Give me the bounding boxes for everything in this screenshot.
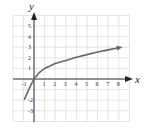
function-graph: x y -11234567854321-2-3	[0, 0, 145, 129]
y-tick-label: 4	[28, 34, 31, 40]
x-tick-label: 1	[43, 81, 46, 87]
x-axis-label: x	[134, 73, 140, 85]
x-tick-label: -1	[21, 81, 26, 87]
x-tick-label: 4	[74, 81, 77, 87]
x-tick-label: 2	[53, 81, 56, 87]
y-tick-label: 5	[28, 23, 31, 29]
y-axis-arrow-icon	[31, 12, 37, 20]
y-tick-label: -3	[28, 108, 33, 114]
data-curve	[25, 48, 119, 99]
curve-arrow-icon	[116, 46, 122, 51]
x-axis-arrow-icon	[125, 76, 133, 82]
y-tick-label: -2	[28, 97, 33, 103]
y-tick-label: 3	[28, 44, 31, 50]
x-tick-label: 7	[106, 81, 109, 87]
y-tick-label: 1	[28, 65, 31, 71]
y-tick-label: 2	[28, 55, 31, 61]
x-tick-label: 8	[117, 81, 120, 87]
x-tick-label: 3	[64, 81, 67, 87]
x-tick-label: 6	[96, 81, 99, 87]
y-axis-label: y	[28, 0, 34, 12]
x-tick-label: 5	[85, 81, 88, 87]
